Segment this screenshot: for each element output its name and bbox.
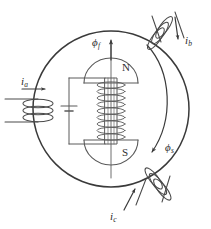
phase-a-current-subscript: a xyxy=(24,80,28,89)
north-pole-label: N xyxy=(122,61,130,73)
south-pole-label: S xyxy=(122,146,128,158)
phase-c-current-subscript: c xyxy=(113,215,117,224)
phase-c-current-arrow xyxy=(124,189,135,210)
phase-b-current-label: ib xyxy=(185,35,192,47)
machine-diagram: N S ϕf ϕs ia ib ic xyxy=(0,0,211,229)
field-flux-symbol: ϕ xyxy=(92,36,98,48)
phase-b-coil xyxy=(145,14,175,51)
phase-a-coil xyxy=(23,99,53,121)
phase-c-current-label: ic xyxy=(110,211,117,223)
stator-flux-arc-arrow xyxy=(147,45,167,152)
stator-flux-subscript: s xyxy=(171,146,174,155)
phase-b-current-subscript: b xyxy=(188,39,192,48)
stator-flux-symbol: ϕ xyxy=(165,141,171,153)
machine-svg xyxy=(0,0,211,229)
stator-flux-label: ϕs xyxy=(165,142,174,154)
field-flux-label: ϕf xyxy=(92,37,100,49)
field-circuit xyxy=(69,78,105,144)
field-flux-subscript: f xyxy=(98,41,100,50)
phase-a-current-label: ia xyxy=(21,76,28,88)
